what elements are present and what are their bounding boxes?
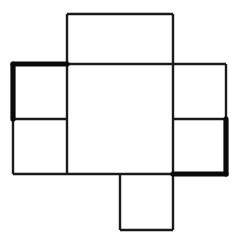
matchstick-figure bbox=[0, 0, 239, 249]
square-lower-left bbox=[13, 119, 67, 174]
square-lower-right bbox=[173, 119, 226, 174]
square-bottom bbox=[120, 174, 173, 230]
square-upper-right bbox=[173, 64, 226, 119]
square-center bbox=[67, 64, 173, 174]
matchstick-canvas bbox=[0, 0, 239, 249]
square-upper-left bbox=[13, 64, 67, 119]
square-top bbox=[67, 14, 173, 64]
